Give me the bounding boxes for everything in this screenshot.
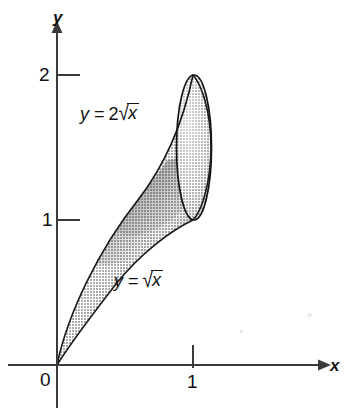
print-speck — [307, 313, 312, 317]
equation-upper-radical: √x — [119, 104, 139, 123]
y-axis-label: y — [53, 9, 62, 26]
equation-upper-lhs: y — [80, 104, 89, 124]
origin-label: 0 — [40, 370, 51, 389]
x-axis-label: x — [330, 357, 339, 374]
equation-lower-lhs: y — [114, 271, 123, 291]
y-tick-label-2: 2 — [39, 65, 50, 84]
equation-lower-equals: = — [123, 271, 143, 291]
y-tick-label-1: 1 — [42, 210, 53, 229]
equation-label-lower-curve: y=√x — [114, 271, 163, 290]
equation-lower-radicand: x — [151, 270, 163, 289]
math-figure: y x 2 1 1 0 y=2√x y=√x — [0, 0, 350, 417]
print-speck — [240, 330, 243, 333]
equation-label-upper-curve: y=2√x — [80, 104, 139, 123]
equation-upper-coefficient: 2 — [109, 104, 119, 124]
x-tick-label-1: 1 — [187, 372, 198, 391]
equation-upper-radicand: x — [127, 103, 139, 122]
equation-lower-radical: √x — [143, 271, 163, 290]
equation-upper-equals: = — [89, 104, 109, 124]
